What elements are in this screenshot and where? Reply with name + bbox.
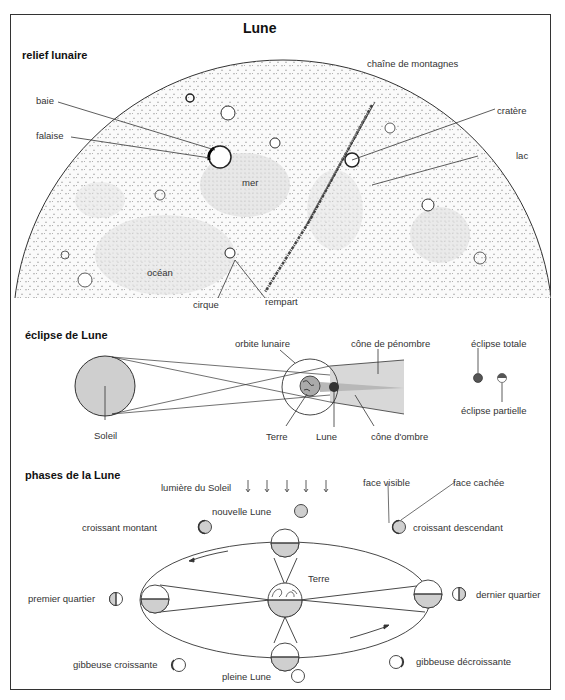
label-terre-eclipse: Terre [266, 432, 288, 442]
label-soleil: Soleil [94, 431, 117, 441]
label-mer: mer [242, 178, 258, 188]
phases-diagram [110, 480, 466, 683]
label-face-cachee: face cachée [453, 478, 504, 488]
label-cone-de-penombre: cône de pénombre [351, 339, 430, 349]
eclipse-diagram [75, 356, 507, 416]
label-ocean: océan [147, 268, 173, 278]
label-croissant-descendant: croissant descendant [413, 523, 503, 533]
section-heading-relief: relief lunaire [22, 49, 87, 61]
label-gibbeuse-decroissante: gibbeuse décroissante [416, 657, 511, 667]
label-orbite-lunaire: orbite lunaire [235, 339, 290, 349]
label-chaine-de-montagnes: chaîne de montagnes [367, 59, 458, 69]
label-dernier-quartier: dernier quartier [476, 590, 540, 600]
label-cratere: cratère [497, 106, 527, 116]
section-heading-eclipse: éclipse de Lune [25, 329, 108, 341]
label-baie: baie [36, 96, 54, 106]
label-cirque: cirque [193, 300, 219, 310]
label-premier-quartier: premier quartier [28, 594, 95, 604]
label-gibbeuse-croissante: gibbeuse croissante [73, 660, 158, 670]
label-falaise: falaise [36, 131, 63, 141]
label-pleine-lune: pleine Lune [222, 672, 271, 682]
label-cone-dombre: cône d'ombre [371, 432, 428, 442]
label-face-visible: face visible [363, 478, 410, 488]
label-nouvelle-lune: nouvelle Lune [212, 507, 271, 517]
label-rempart: rempart [265, 297, 298, 307]
label-eclipse-totale: éclipse totale [471, 339, 526, 349]
label-eclipse-partielle: éclipse partielle [461, 406, 526, 416]
label-terre-phases: Terre [308, 574, 330, 584]
label-croissant-montant: croissant montant [82, 523, 157, 533]
section-heading-phases: phases de la Lune [25, 469, 120, 481]
label-lumiere-du-soleil: lumière du Soleil [161, 483, 231, 493]
label-lune-eclipse: Lune [316, 432, 337, 442]
page-title: Lune [243, 20, 276, 36]
label-lac: lac [516, 151, 528, 161]
